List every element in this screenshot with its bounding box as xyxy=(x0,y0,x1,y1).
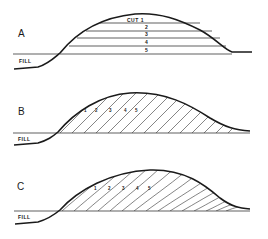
panel-b-cut-label-2: 2 xyxy=(95,108,98,113)
panel-b-cut-label-4: 4 xyxy=(124,108,127,113)
panel-a-cut-label-2: 2 xyxy=(145,24,148,30)
panel-b-hatch-slices xyxy=(60,83,268,133)
panel-c: C 1 2 3 4 5 FILL xyxy=(14,165,250,224)
panel-a: A CUT 1 2 3 4 5 FILL xyxy=(13,14,252,69)
panel-b-cut-label-3: 3 xyxy=(109,108,112,113)
panel-b-terrain-profile xyxy=(14,93,250,145)
panel-a-letter: A xyxy=(18,28,25,39)
panel-a-cut-label-1: CUT 1 xyxy=(127,17,144,23)
panel-a-cut-label-4: 4 xyxy=(145,39,148,45)
panel-c-terrain-profile xyxy=(15,170,250,224)
panel-a-cut-label-5: 5 xyxy=(145,47,148,53)
panel-b-fill-label: FILL xyxy=(18,136,31,142)
cut-fill-diagram: A CUT 1 2 3 4 5 FILL B xyxy=(0,0,268,239)
panel-a-fill-label: FILL xyxy=(19,58,32,64)
panel-b-cut-label-5: 5 xyxy=(135,108,138,113)
panel-c-fill-label: FILL xyxy=(18,214,31,220)
panel-a-cut-label-3: 3 xyxy=(145,31,148,37)
panel-b: B 1 2 3 4 5 FILL xyxy=(13,83,268,145)
panel-c-cut-label-1: 1 xyxy=(94,186,97,191)
panel-b-letter: B xyxy=(18,106,25,117)
panel-c-letter: C xyxy=(17,181,24,192)
panel-b-cut-label-1: 1 xyxy=(84,108,87,113)
